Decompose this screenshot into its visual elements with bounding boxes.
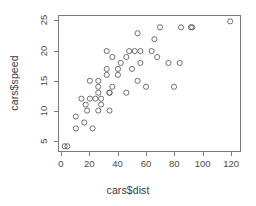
y-axis-tick (54, 81, 58, 82)
data-point (118, 60, 123, 65)
data-point (73, 114, 78, 119)
data-point (96, 108, 101, 113)
data-point (132, 49, 137, 54)
data-point (166, 60, 171, 65)
y-axis-tick-label: 15 (39, 76, 49, 87)
data-point (93, 96, 98, 101)
data-point (73, 126, 78, 131)
plot-area (58, 15, 241, 152)
data-point (107, 90, 112, 95)
scatter-points-layer (59, 16, 240, 151)
data-point (152, 37, 157, 42)
data-point (178, 25, 183, 30)
data-point (110, 84, 115, 89)
y-axis-tick (54, 111, 58, 112)
data-point (79, 96, 84, 101)
y-axis-tick (54, 51, 58, 52)
data-point (124, 54, 129, 59)
data-point (135, 31, 140, 36)
data-point (177, 60, 182, 65)
data-point (115, 72, 120, 77)
x-axis-tick-label: 120 (223, 159, 239, 169)
y-axis-tick-label: 25 (39, 15, 49, 26)
data-point (127, 49, 132, 54)
x-axis-tick (61, 152, 62, 156)
x-axis-tick-label: 40 (112, 159, 123, 169)
data-point (107, 108, 112, 113)
data-point (228, 19, 233, 24)
data-point (129, 66, 134, 71)
x-axis-tick (118, 152, 119, 156)
y-axis-tick-label: 5 (39, 138, 49, 143)
x-axis-tick (231, 152, 232, 156)
chart-screenshot: 020406080100120510152025 cars$dist cars$… (0, 0, 256, 206)
data-point (149, 49, 154, 54)
data-point (104, 49, 109, 54)
data-point (104, 66, 109, 71)
x-axis-tick (146, 152, 147, 156)
y-axis-tick (54, 141, 58, 142)
data-point (96, 84, 101, 89)
data-point (84, 108, 89, 113)
y-axis-label: cars$speed (8, 55, 20, 110)
data-point (87, 78, 92, 83)
x-axis-tick-label: 0 (58, 159, 63, 169)
data-point (124, 90, 129, 95)
x-axis-tick-label: 80 (169, 159, 180, 169)
data-point (90, 126, 95, 131)
data-point (83, 102, 88, 107)
y-axis-tick-label: 10 (39, 106, 49, 117)
x-axis-tick-label: 60 (141, 159, 152, 169)
data-point (115, 66, 120, 71)
data-point (96, 90, 101, 95)
y-axis-tick-label: 20 (39, 45, 49, 56)
y-axis-tick (54, 20, 58, 21)
data-point (157, 25, 162, 30)
data-point (99, 96, 104, 101)
x-axis-tick-label: 100 (195, 159, 211, 169)
data-point (110, 54, 115, 59)
data-point (87, 96, 92, 101)
x-axis-tick (89, 152, 90, 156)
x-axis-tick (174, 152, 175, 156)
data-point (138, 49, 143, 54)
data-point (143, 84, 148, 89)
data-point (104, 72, 109, 77)
data-point (138, 60, 143, 65)
data-point (96, 78, 101, 83)
data-point (171, 84, 176, 89)
x-axis-tick (203, 152, 204, 156)
data-point (135, 78, 140, 83)
data-point (82, 120, 87, 125)
data-point (99, 102, 104, 107)
data-point (155, 54, 160, 59)
x-axis-tick-label: 20 (84, 159, 95, 169)
x-axis-label: cars$dist (0, 184, 256, 196)
